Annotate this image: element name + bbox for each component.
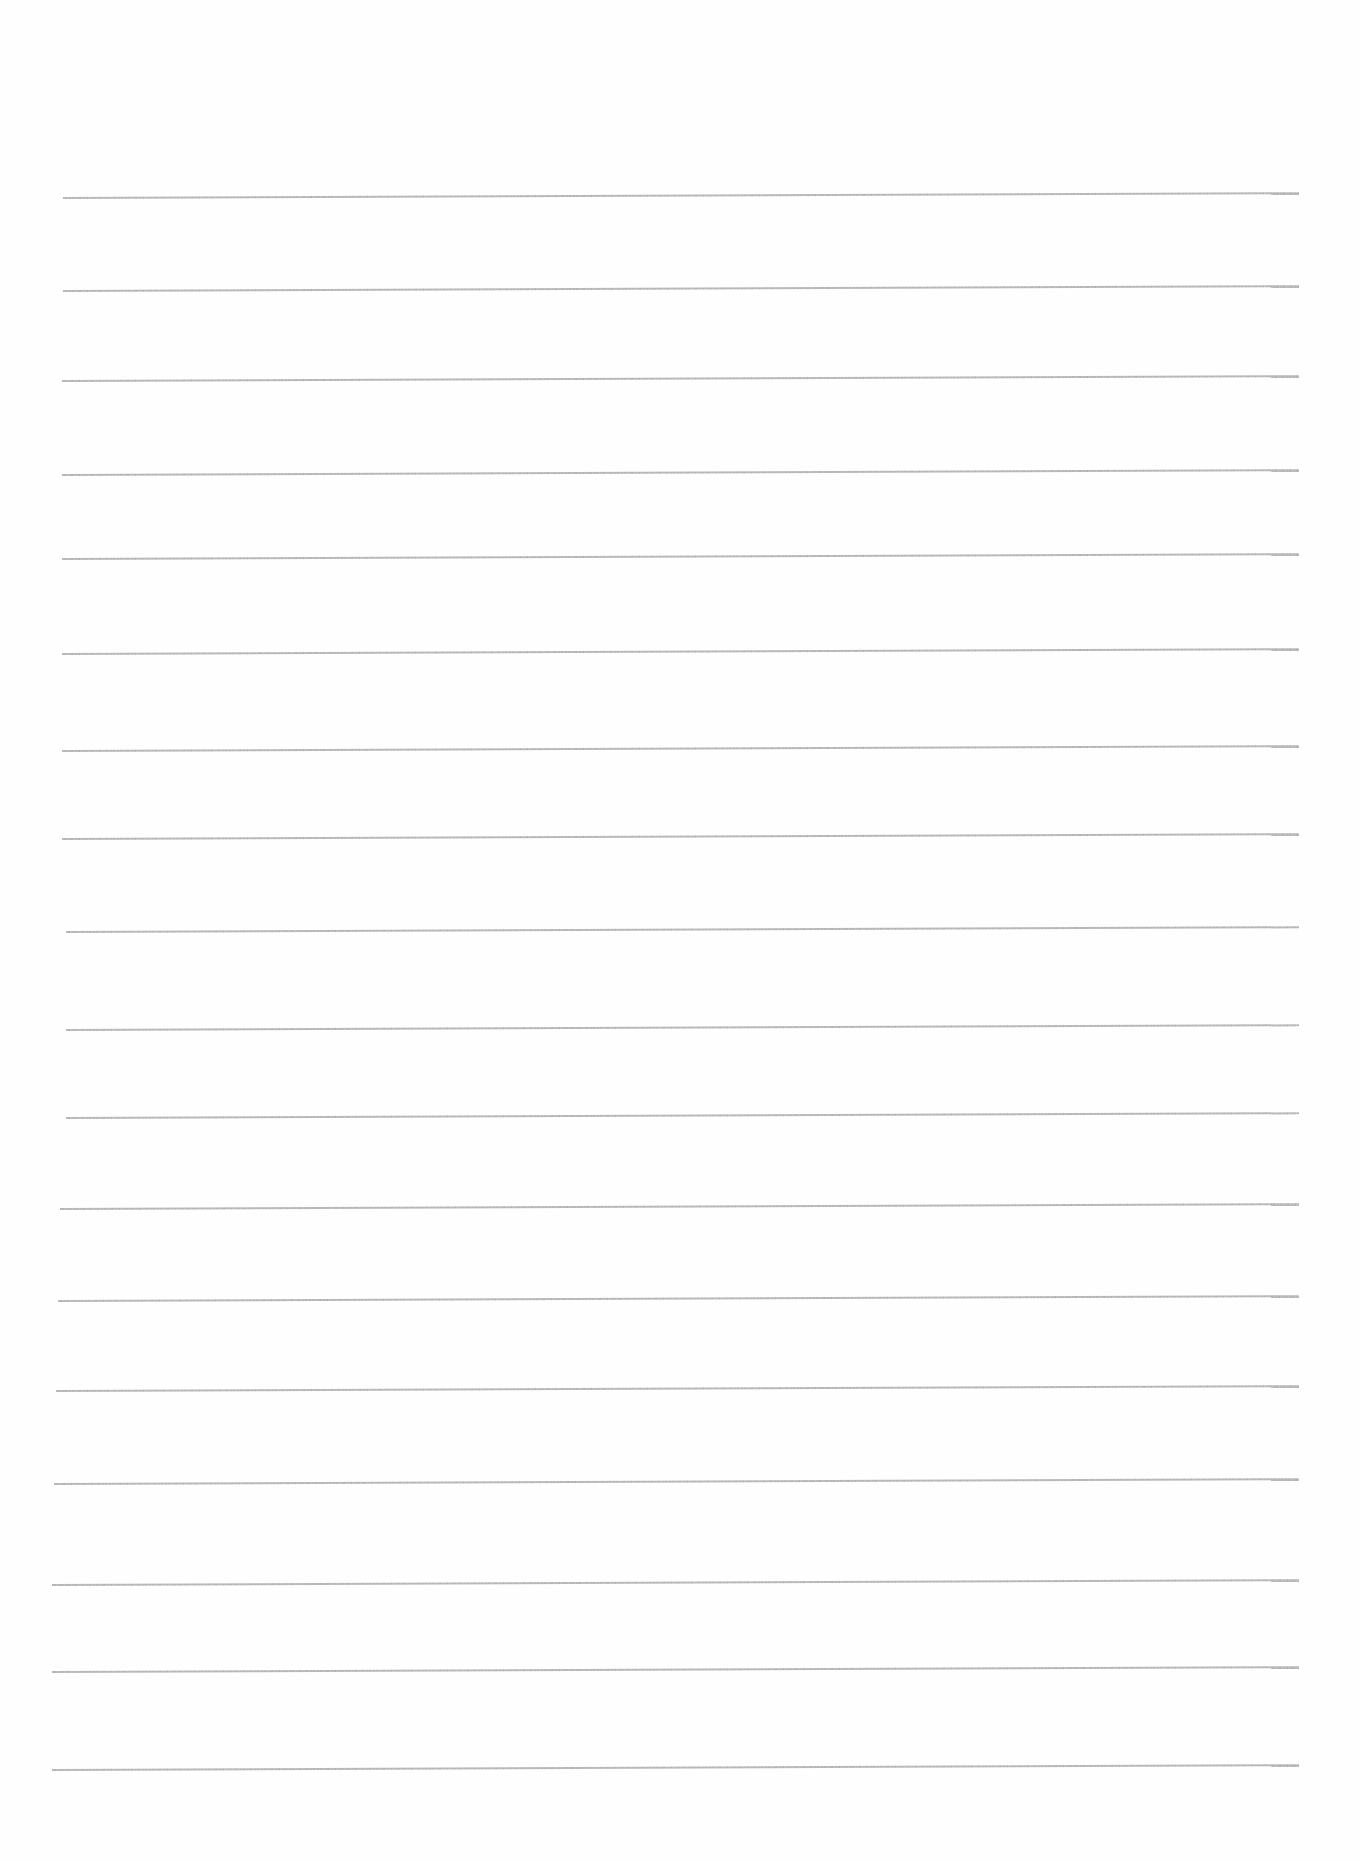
ruled-line bbox=[66, 926, 1299, 933]
ruled-line bbox=[52, 1579, 1299, 1586]
ruled-line bbox=[62, 833, 1299, 840]
ruled-line bbox=[54, 1478, 1299, 1485]
ruled-line bbox=[63, 285, 1299, 292]
ruled-line bbox=[62, 648, 1299, 655]
ruled-line bbox=[52, 1764, 1299, 1771]
ruled-line bbox=[52, 1666, 1299, 1673]
ruled-line bbox=[56, 1385, 1299, 1392]
ruled-line bbox=[58, 1295, 1299, 1302]
ruled-paper-sheet bbox=[0, 0, 1359, 1861]
ruled-line bbox=[63, 192, 1299, 199]
ruled-line bbox=[62, 745, 1299, 752]
ruled-line bbox=[60, 1203, 1299, 1210]
ruled-line bbox=[62, 553, 1299, 560]
ruled-line bbox=[66, 1024, 1299, 1031]
ruled-line bbox=[66, 1112, 1299, 1119]
ruled-line bbox=[62, 375, 1299, 382]
ruled-line bbox=[62, 469, 1299, 476]
